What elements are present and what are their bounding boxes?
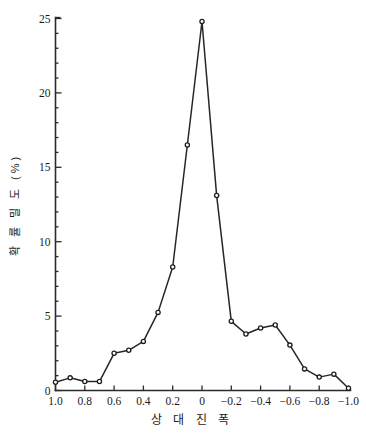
y-tick-label: 25 [39, 13, 51, 25]
data-point [156, 310, 160, 314]
data-point [229, 319, 233, 323]
x-tick-label: −0.2 [221, 395, 242, 407]
data-point [112, 351, 116, 355]
data-point [244, 332, 248, 336]
chart-figure: 1.00.80.60.40.20−0.2−0.4−0.6−0.8−1.0 051… [0, 0, 366, 434]
x-tick-label: 0.8 [78, 395, 93, 407]
x-tick-label: 0.4 [136, 395, 151, 407]
data-point [171, 265, 175, 269]
x-tick-label: −0.6 [279, 395, 300, 407]
y-tick-label: 0 [45, 385, 51, 397]
x-tick-label: −0.4 [250, 395, 271, 407]
data-point [273, 323, 277, 327]
data-point [53, 380, 57, 384]
data-point [215, 193, 219, 197]
y-tick-label: 20 [39, 87, 51, 99]
data-point [97, 379, 101, 383]
data-point [346, 386, 350, 390]
x-tick-label: −1.0 [338, 395, 359, 407]
data-point-markers [53, 19, 350, 390]
x-tick-label: −0.8 [309, 395, 330, 407]
y-tick-label: 5 [45, 310, 51, 322]
x-axis-tick-labels: 1.00.80.60.40.20−0.2−0.4−0.6−0.8−1.0 [48, 395, 359, 407]
probability-density-line-chart: 1.00.80.60.40.20−0.2−0.4−0.6−0.8−1.0 051… [0, 0, 366, 434]
data-series-line [56, 21, 349, 388]
plot-area: 1.00.80.60.40.20−0.2−0.4−0.6−0.8−1.0 051… [39, 13, 359, 407]
data-point [302, 367, 306, 371]
x-tick-label: 0 [199, 395, 205, 407]
axes [56, 18, 351, 391]
data-point [185, 143, 189, 147]
data-point [68, 376, 72, 380]
data-point [200, 19, 204, 23]
y-axis-title: 확 률 밀 도 (%) [9, 154, 21, 256]
data-point [259, 326, 263, 330]
y-axis-ticks [56, 19, 62, 391]
data-point [83, 379, 87, 383]
y-tick-label: 15 [39, 161, 51, 173]
x-tick-label: 1.0 [48, 395, 63, 407]
data-point [317, 375, 321, 379]
data-point [332, 372, 336, 376]
data-point [288, 343, 292, 347]
data-point [127, 348, 131, 352]
y-tick-label: 10 [39, 236, 51, 248]
data-point [141, 339, 145, 343]
x-tick-label: 0.6 [107, 395, 122, 407]
y-axis-tick-labels: 0510152025 [39, 13, 51, 397]
x-tick-label: 0.2 [166, 395, 181, 407]
x-axis-title: 상 대 진 폭 [151, 413, 233, 427]
